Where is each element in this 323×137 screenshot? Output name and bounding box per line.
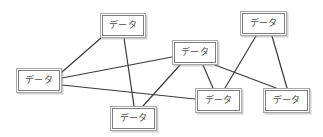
node-top-left-frame: データ — [102, 15, 144, 36]
node-top-right-label: データ — [250, 19, 278, 28]
node-layer: データデータデータデータデータデータデータ — [0, 0, 323, 137]
node-bottom-center[interactable]: データ — [195, 88, 242, 113]
node-bottom-left-frame: データ — [112, 108, 155, 129]
node-top-left-label: データ — [109, 21, 137, 30]
node-top-right-frame: データ — [242, 13, 285, 34]
node-center-frame: データ — [174, 42, 216, 63]
diagram-canvas: データデータデータデータデータデータデータ — [0, 0, 323, 137]
node-bottom-center-frame: データ — [197, 90, 240, 111]
node-left-frame: データ — [18, 70, 60, 91]
node-bottom-left-label: データ — [120, 114, 148, 123]
node-top-right[interactable]: データ — [240, 11, 287, 36]
node-bottom-right-frame: データ — [265, 90, 308, 111]
node-bottom-center-label: データ — [205, 96, 233, 105]
node-bottom-right[interactable]: データ — [263, 88, 310, 113]
node-center-label: データ — [181, 48, 209, 57]
node-left-label: データ — [25, 76, 53, 85]
node-center[interactable]: データ — [172, 40, 218, 65]
node-bottom-right-label: データ — [273, 96, 301, 105]
node-left[interactable]: データ — [16, 68, 62, 93]
node-top-left[interactable]: データ — [100, 13, 146, 38]
node-bottom-left[interactable]: データ — [110, 106, 157, 131]
